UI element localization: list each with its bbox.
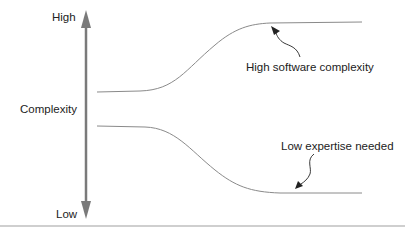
- pointer-arrowhead-icon: [271, 26, 280, 35]
- pointer-arrowhead-icon: [295, 181, 303, 189]
- axis-label-complexity: Complexity: [20, 104, 77, 116]
- software-complexity-curve: [97, 22, 362, 92]
- annotation-low-expertise-needed: Low expertise needed: [281, 141, 394, 153]
- axis-up-arrowhead-icon: [81, 10, 91, 28]
- annotation-high-software-complexity: High software complexity: [246, 62, 374, 74]
- diagram-canvas: [0, 0, 405, 231]
- low-expertise-pointer: [295, 154, 314, 189]
- axis-label-high: High: [52, 12, 76, 24]
- axis-label-low: Low: [56, 209, 77, 221]
- high-complexity-pointer: [271, 26, 300, 57]
- axis-down-arrowhead-icon: [81, 201, 91, 219]
- expertise-needed-curve: [97, 126, 362, 193]
- complexity-axis: [81, 10, 91, 219]
